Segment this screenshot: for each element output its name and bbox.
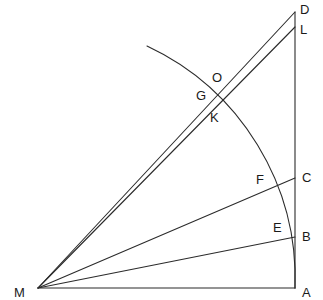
point-label-a: A [302, 286, 311, 299]
geometry-canvas [0, 0, 323, 300]
point-label-m: M [14, 286, 25, 299]
point-label-g: G [196, 89, 206, 102]
line-segment-MD [38, 12, 295, 288]
line-segment-ML [38, 27, 295, 288]
point-label-b: B [302, 230, 311, 243]
point-label-d: D [300, 3, 309, 16]
line-segment-MC [38, 178, 295, 288]
point-label-e: E [273, 221, 282, 234]
point-label-c: C [302, 171, 311, 184]
point-label-f: F [256, 173, 264, 186]
point-label-o: O [212, 71, 222, 84]
line-segment-MB [38, 237, 295, 288]
point-label-k: K [210, 111, 219, 124]
geometry-diagram: MABCDLEFGOK [0, 0, 323, 300]
point-label-l: L [300, 23, 307, 36]
